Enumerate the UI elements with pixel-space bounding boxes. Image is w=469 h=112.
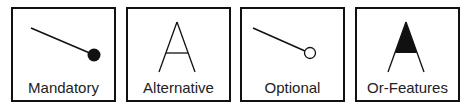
legend-label: Or-Features — [357, 79, 458, 96]
legend-box-optional: Optional — [240, 7, 345, 102]
legend-label: Mandatory — [13, 79, 114, 96]
legend-box-or-features: Or-Features — [355, 7, 460, 102]
legend-label: Alternative — [128, 79, 229, 96]
legend-box-mandatory: Mandatory — [11, 7, 116, 102]
legend-box-alternative: Alternative — [126, 7, 231, 102]
legend-label: Optional — [242, 79, 343, 96]
